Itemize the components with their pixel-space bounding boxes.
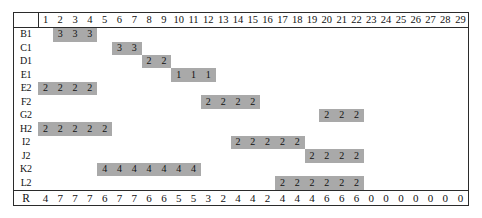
task-cell-empty bbox=[112, 122, 127, 135]
task-cell-empty bbox=[112, 109, 127, 122]
table-row: K24444444 bbox=[14, 163, 468, 176]
task-cell-empty bbox=[245, 55, 260, 68]
task-cell-empty bbox=[349, 28, 364, 42]
task-cell-empty bbox=[231, 55, 246, 68]
task-cell-empty bbox=[216, 55, 231, 68]
column-header-5: 5 bbox=[97, 13, 112, 28]
task-cell-empty bbox=[453, 55, 468, 68]
task-cell-empty bbox=[186, 176, 201, 190]
task-cell-empty bbox=[379, 136, 394, 149]
task-cell-empty bbox=[408, 82, 423, 95]
column-header-2: 2 bbox=[53, 13, 68, 28]
task-cell-empty bbox=[394, 122, 409, 135]
column-header-row: 1234567891011121314151617181920212223242… bbox=[14, 13, 468, 28]
task-cell-empty bbox=[290, 42, 305, 55]
task-cell-empty bbox=[231, 163, 246, 176]
task-cell-empty bbox=[394, 136, 409, 149]
task-cell-empty bbox=[142, 28, 157, 42]
task-cell-empty bbox=[305, 122, 320, 135]
task-cell-empty bbox=[245, 68, 260, 81]
task-cell-empty bbox=[245, 109, 260, 122]
column-header-10: 10 bbox=[171, 13, 186, 28]
task-cell-empty bbox=[201, 122, 216, 135]
task-cell-empty bbox=[82, 163, 97, 176]
resource-value-cell: 4 bbox=[275, 191, 290, 206]
task-cell-empty bbox=[394, 68, 409, 81]
task-cell-empty bbox=[82, 95, 97, 108]
task-cell-empty bbox=[453, 68, 468, 81]
resource-value-cell: 7 bbox=[112, 191, 127, 206]
task-cell-filled: 2 bbox=[349, 176, 364, 190]
task-cell-filled: 2 bbox=[305, 149, 320, 162]
task-cell-empty bbox=[231, 42, 246, 55]
task-cell-empty bbox=[216, 176, 231, 190]
column-header-25: 25 bbox=[394, 13, 409, 28]
task-cell-empty bbox=[394, 42, 409, 55]
task-cell-empty bbox=[157, 136, 172, 149]
column-header-16: 16 bbox=[260, 13, 275, 28]
table-row: G2222 bbox=[14, 109, 468, 122]
task-cell-empty bbox=[379, 42, 394, 55]
task-cell-empty bbox=[245, 42, 260, 55]
resource-value-cell: 6 bbox=[142, 191, 157, 206]
task-cell-empty bbox=[408, 163, 423, 176]
task-cell-filled: 2 bbox=[245, 95, 260, 108]
task-cell-empty bbox=[364, 149, 379, 162]
task-cell-empty bbox=[245, 28, 260, 42]
column-header-29: 29 bbox=[453, 13, 468, 28]
task-cell-empty bbox=[82, 55, 97, 68]
resource-value-cell: 0 bbox=[423, 191, 438, 206]
task-cell-empty bbox=[82, 176, 97, 190]
task-cell-empty bbox=[453, 176, 468, 190]
column-header-17: 17 bbox=[275, 13, 290, 28]
resource-value-cell: 0 bbox=[453, 191, 468, 206]
task-cell-filled: 4 bbox=[157, 163, 172, 176]
task-cell-empty bbox=[319, 163, 334, 176]
table-head: 1234567891011121314151617181920212223242… bbox=[14, 13, 468, 28]
task-cell-empty bbox=[171, 176, 186, 190]
task-cell-empty bbox=[423, 136, 438, 149]
task-cell-empty bbox=[68, 176, 83, 190]
task-cell-empty bbox=[201, 176, 216, 190]
task-cell-empty bbox=[438, 109, 453, 122]
resource-value-cell: 7 bbox=[53, 191, 68, 206]
task-cell-empty bbox=[290, 68, 305, 81]
task-cell-empty bbox=[408, 28, 423, 42]
task-cell-empty bbox=[260, 55, 275, 68]
task-cell-empty bbox=[394, 95, 409, 108]
task-cell-empty bbox=[334, 68, 349, 81]
task-cell-empty bbox=[53, 68, 68, 81]
table-row: L2222222 bbox=[14, 176, 468, 190]
task-cell-empty bbox=[142, 149, 157, 162]
table-row: E1111 bbox=[14, 68, 468, 81]
task-cell-empty bbox=[319, 28, 334, 42]
task-cell-empty bbox=[142, 109, 157, 122]
task-cell-empty bbox=[216, 136, 231, 149]
task-cell-empty bbox=[379, 82, 394, 95]
column-header-28: 28 bbox=[438, 13, 453, 28]
row-label-I2: I2 bbox=[14, 136, 38, 149]
task-cell-empty bbox=[364, 176, 379, 190]
table-row: C133 bbox=[14, 42, 468, 55]
column-header-6: 6 bbox=[112, 13, 127, 28]
task-cell-filled: 3 bbox=[112, 42, 127, 55]
task-cell-empty bbox=[379, 109, 394, 122]
task-cell-filled: 4 bbox=[142, 163, 157, 176]
task-cell-empty bbox=[38, 42, 53, 55]
task-cell-empty bbox=[260, 122, 275, 135]
task-cell-empty bbox=[157, 109, 172, 122]
task-cell-empty bbox=[171, 28, 186, 42]
task-cell-empty bbox=[142, 122, 157, 135]
task-cell-empty bbox=[305, 68, 320, 81]
task-cell-empty bbox=[364, 55, 379, 68]
task-cell-empty bbox=[201, 136, 216, 149]
table-row: J22222 bbox=[14, 149, 468, 162]
task-cell-filled: 4 bbox=[112, 163, 127, 176]
task-cell-filled: 2 bbox=[290, 176, 305, 190]
task-cell-filled: 2 bbox=[38, 122, 53, 135]
task-cell-empty bbox=[157, 149, 172, 162]
task-cell-filled: 3 bbox=[53, 28, 68, 42]
task-cell-filled: 2 bbox=[97, 122, 112, 135]
task-cell-empty bbox=[186, 95, 201, 108]
task-cell-empty bbox=[364, 136, 379, 149]
